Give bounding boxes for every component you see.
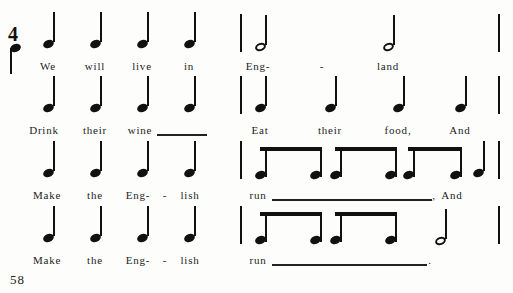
beam-r4-2 bbox=[335, 212, 397, 216]
note-stem bbox=[53, 141, 55, 171]
barline-middle bbox=[240, 14, 242, 52]
note-stem bbox=[194, 141, 196, 171]
note-stem bbox=[465, 76, 467, 106]
note-stem bbox=[265, 15, 267, 45]
beam-r3-3 bbox=[408, 147, 462, 151]
note-stem bbox=[100, 141, 102, 171]
note-stem bbox=[265, 76, 267, 106]
note-stem bbox=[194, 12, 196, 42]
note-stem bbox=[265, 212, 267, 242]
note-stem bbox=[393, 15, 395, 45]
note-stem bbox=[340, 147, 342, 177]
lyric-r4-hyphen: - bbox=[163, 254, 167, 266]
note-stem bbox=[147, 76, 149, 106]
note-stem bbox=[445, 209, 447, 239]
barline-middle bbox=[240, 141, 242, 179]
barline-middle bbox=[240, 76, 242, 114]
staff-system-1: 4 We bbox=[0, 0, 513, 66]
barline-end bbox=[498, 206, 500, 244]
note-stem bbox=[335, 76, 337, 106]
note-stem bbox=[340, 212, 342, 242]
lyric-r4-period: . bbox=[428, 254, 432, 266]
note-stem bbox=[147, 12, 149, 42]
note-stem bbox=[395, 147, 397, 177]
note-stem bbox=[320, 147, 322, 177]
note-stem bbox=[194, 76, 196, 106]
note-stem bbox=[53, 12, 55, 42]
staff-system-4: Make the Eng- - lish run . bbox=[0, 196, 513, 262]
lyric-r4-w5: run bbox=[249, 254, 266, 266]
note-stem bbox=[320, 212, 322, 242]
note-stem bbox=[53, 76, 55, 106]
note-stem bbox=[100, 76, 102, 106]
note-stem bbox=[413, 147, 415, 177]
lyric-r4-w3: Eng- bbox=[126, 254, 151, 266]
note-stem bbox=[194, 206, 196, 236]
sheet-music-page: 4 We bbox=[0, 0, 513, 293]
note-stem bbox=[460, 147, 462, 177]
staff-system-3: Make the Eng- - lish run , And bbox=[0, 131, 513, 197]
barline-middle bbox=[240, 206, 242, 244]
page-number: 58 bbox=[10, 272, 25, 288]
lyric-r4-w4: lish bbox=[180, 254, 199, 266]
beam-r4-1 bbox=[260, 212, 322, 216]
note-stem bbox=[403, 76, 405, 106]
time-signature: 4 bbox=[8, 24, 18, 44]
note-stem bbox=[395, 212, 397, 242]
barline-end bbox=[498, 141, 500, 179]
note-stem bbox=[53, 206, 55, 236]
barline-end bbox=[498, 14, 500, 52]
melisma-line-run bbox=[272, 264, 427, 266]
note-stem bbox=[147, 206, 149, 236]
beam-r3-2 bbox=[335, 147, 397, 151]
note-stem bbox=[100, 206, 102, 236]
note-stem bbox=[100, 12, 102, 42]
note-stem bbox=[147, 141, 149, 171]
note-stem bbox=[483, 141, 485, 171]
staff-system-2: Drink their wine Eat their food, And bbox=[0, 66, 513, 132]
lyric-r4-w2: the bbox=[87, 254, 103, 266]
lyric-r4-w1: Make bbox=[33, 254, 61, 266]
beam-r3-1 bbox=[260, 147, 322, 151]
note-stem bbox=[265, 147, 267, 177]
barline-end bbox=[498, 76, 500, 114]
